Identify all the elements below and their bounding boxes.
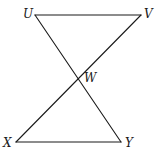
label-w: W xyxy=(84,71,98,85)
label-u: U xyxy=(23,7,34,21)
segment-vx xyxy=(16,15,141,142)
label-y: Y xyxy=(125,136,134,150)
geometry-diagram: U V W X Y xyxy=(0,0,156,155)
label-v: V xyxy=(144,7,154,21)
label-x: X xyxy=(2,136,12,150)
